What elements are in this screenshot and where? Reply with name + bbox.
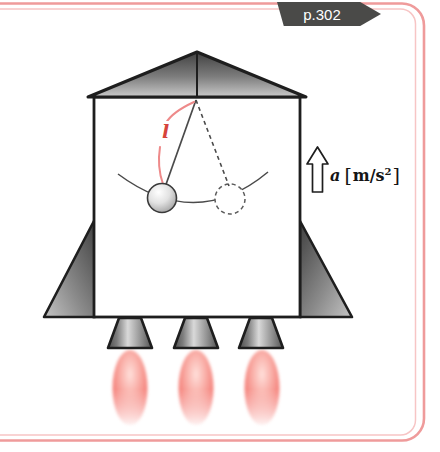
engine-flame-center (179, 350, 214, 426)
rocket-diagram (0, 0, 440, 452)
rocket-fin-right (300, 221, 352, 317)
rocket-body (94, 97, 300, 317)
unit-open-bracket: [ (343, 164, 352, 186)
engine-nozzle-center (174, 318, 218, 348)
engine-flame-right (245, 350, 280, 426)
pendulum-bob (148, 184, 177, 213)
page-ref-label: p.302 (303, 7, 341, 22)
unit-close-bracket: ] (392, 164, 401, 186)
figure-canvas: p.302 l a[m/s2] (0, 0, 440, 452)
engine-nozzle-right (239, 318, 283, 348)
engine-nozzle-left (108, 318, 152, 348)
acceleration-symbol: a (330, 166, 340, 185)
page-ref-badge: p.302 (277, 2, 381, 26)
pendulum-bob-ghost (215, 184, 245, 214)
rocket-fin-left (44, 219, 95, 317)
up-arrow-icon (307, 147, 328, 192)
acceleration-label: a[m/s2] (330, 163, 401, 186)
length-label: l (161, 121, 170, 142)
unit-text: m/s (353, 166, 385, 185)
engine-flames (113, 350, 280, 426)
unit-exponent: 2 (385, 166, 392, 177)
engine-flame-left (113, 350, 148, 426)
